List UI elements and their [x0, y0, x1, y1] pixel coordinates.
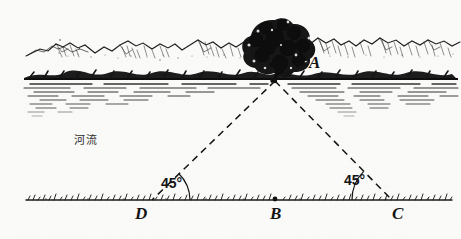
- angle-label-left: 45°: [161, 176, 182, 190]
- point-label-d: D: [135, 205, 147, 222]
- point-b-dot: [273, 197, 278, 202]
- river-label: 河流: [74, 131, 97, 147]
- label-a-leader-arrow: [283, 62, 307, 77]
- figure-root: A B C D 45° 45° 河流: [0, 0, 461, 239]
- point-label-a: A: [309, 54, 320, 71]
- point-label-b: B: [270, 205, 281, 222]
- point-label-c: C: [392, 205, 403, 222]
- sight-line-AC: [275, 81, 392, 200]
- point-a-dot: [273, 79, 277, 83]
- angle-label-right: 45°: [344, 173, 365, 187]
